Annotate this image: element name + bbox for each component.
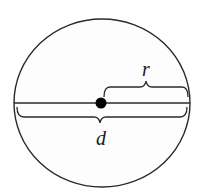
diameter-label: d xyxy=(96,127,107,149)
radius-label: r xyxy=(142,58,150,80)
center-point xyxy=(96,98,107,109)
circle-diagram: r d xyxy=(0,0,199,190)
